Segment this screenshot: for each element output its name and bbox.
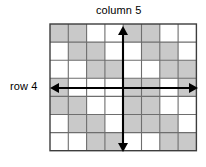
grid-cell-shaded bbox=[142, 96, 160, 114]
grid-cell-shaded bbox=[123, 115, 141, 133]
grid-cell-shaded bbox=[68, 115, 86, 133]
grid-cell-shaded bbox=[87, 42, 105, 60]
grid-cell-shaded bbox=[178, 60, 196, 78]
grid-cell-shaded bbox=[160, 115, 178, 133]
grid-cell-shaded bbox=[123, 96, 141, 114]
grid-cell-shaded bbox=[142, 115, 160, 133]
grid-cell-shaded bbox=[87, 133, 105, 151]
grid-cell-shaded bbox=[68, 96, 86, 114]
grid-cell-shaded bbox=[160, 42, 178, 60]
grid-cell-shaded bbox=[68, 24, 86, 42]
grid-cell-shaded bbox=[142, 42, 160, 60]
grid-cell-shaded bbox=[87, 60, 105, 78]
grid-cell-shaded bbox=[87, 115, 105, 133]
grid-cell-shaded bbox=[105, 60, 123, 78]
grid-cell-shaded bbox=[178, 133, 196, 151]
grid-cell-shaded bbox=[68, 42, 86, 60]
grid-cell-shaded bbox=[160, 60, 178, 78]
grid-cell-shaded bbox=[50, 24, 68, 42]
grid-cell-shaded bbox=[50, 96, 68, 114]
grid-cell-shaded bbox=[105, 133, 123, 151]
diagram-canvas: column 5 row 4 bbox=[0, 0, 206, 167]
grid-cell-shaded bbox=[142, 24, 160, 42]
grid-figure bbox=[0, 0, 206, 167]
grid-cell-shaded bbox=[160, 133, 178, 151]
